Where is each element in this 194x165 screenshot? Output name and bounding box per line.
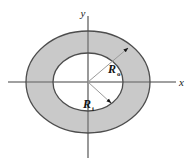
- inner-radius-label: R i: [82, 97, 94, 113]
- inner-radius-label-subscript: i: [92, 105, 94, 113]
- x-axis-label: x: [178, 76, 184, 88]
- inner-radius-label-letter: R: [82, 97, 91, 111]
- outer-radius-label-letter: R: [107, 62, 116, 76]
- y-axis-label: y: [80, 7, 86, 19]
- outer-radius-label-subscript: o: [117, 70, 121, 78]
- figure-container: y x R o R i: [0, 0, 194, 165]
- inner-radius-leader-line: [88, 82, 111, 103]
- annulus-diagram: y x R o R i: [0, 0, 194, 165]
